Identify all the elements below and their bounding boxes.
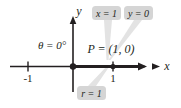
coordinate-plane-svg: -1 1 x y θ = 0° P = (1, 0) x = 1 y = 0 r… [0, 0, 181, 108]
y-axis-arrowhead [70, 16, 77, 24]
x-tick-label-negative-one: -1 [23, 72, 32, 84]
leader-line-r-value [88, 66, 109, 86]
origin-point [70, 63, 76, 69]
angle-label: θ = 0° [38, 39, 67, 51]
x-tick-label-positive-one: 1 [110, 72, 116, 84]
badge-y-value-text: y = 0 [127, 8, 149, 19]
badge-x-value: x = 1 [92, 6, 121, 20]
badge-y-value: y = 0 [124, 6, 153, 20]
badge-x-value-text: x = 1 [95, 8, 117, 19]
x-ray-arrowhead [138, 62, 147, 70]
x-axis-arrowhead [152, 63, 160, 70]
point-p [110, 64, 115, 69]
point-label: P = (1, 0) [86, 42, 134, 56]
y-axis-label: y [75, 4, 82, 18]
badge-r-value-text: r = 1 [81, 88, 102, 99]
math-figure: -1 1 x y θ = 0° P = (1, 0) x = 1 y = 0 r… [0, 0, 181, 108]
badge-r-value: r = 1 [77, 86, 106, 100]
x-axis-label: x [163, 59, 170, 73]
